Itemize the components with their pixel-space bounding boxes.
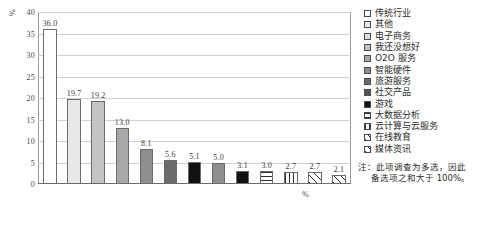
legend-item[interactable]: 社交产品 xyxy=(364,87,479,98)
bar-value-label: 3.0 xyxy=(261,161,272,170)
bar-column: 19.7 xyxy=(67,99,80,184)
bar-value-label: 2.1 xyxy=(334,165,345,174)
bar xyxy=(188,162,201,184)
bar-column: 2.1 xyxy=(332,175,345,184)
legend-label: 智能硬件 xyxy=(375,65,411,76)
legend-swatch-icon xyxy=(364,33,371,40)
bar xyxy=(332,175,345,184)
y-axis-tick-label: 10 xyxy=(26,137,35,146)
bar-column: 13.0 xyxy=(116,128,129,184)
bar-value-label: 2.7 xyxy=(285,162,296,171)
legend-swatch-icon xyxy=(364,123,371,130)
bar xyxy=(284,172,297,184)
y-axis-tick-label: 0 xyxy=(31,180,35,189)
legend-swatch-icon xyxy=(364,78,371,85)
plot-area: 0510152025303540 36.019.719.213.08.15.65… xyxy=(38,12,351,184)
legend-item[interactable]: 旅游服务 xyxy=(364,76,479,87)
legend-swatch-icon xyxy=(364,55,371,62)
bar-value-label: 19.7 xyxy=(67,89,82,98)
legend-swatch-icon xyxy=(364,10,371,17)
chart-note: 注：此项调查为多选，因此 备选项之和大于 100%。 xyxy=(358,162,480,184)
y-axis-tick-label: 5 xyxy=(31,158,35,167)
chart-note-line-2: 备选项之和大于 100%。 xyxy=(358,173,480,184)
bar-column: 2.7 xyxy=(284,172,297,184)
legend-item[interactable]: 智能硬件 xyxy=(364,64,479,75)
bar-value-label: 36.0 xyxy=(43,19,58,28)
legend-label: 电子商务 xyxy=(375,31,411,42)
bar-value-label: 8.1 xyxy=(141,139,152,148)
legend-swatch-icon xyxy=(364,44,371,51)
bar xyxy=(91,101,104,184)
y-axis-tick-label: 15 xyxy=(26,115,35,124)
legend-swatch-icon xyxy=(364,146,371,153)
bar-value-label: 5.0 xyxy=(213,153,224,162)
bar-column: 3.1 xyxy=(236,171,249,184)
legend-label: O2O 服务 xyxy=(375,53,416,64)
y-axis-tick-label: 40 xyxy=(26,8,35,17)
legend-item[interactable]: 传统行业 xyxy=(364,8,479,19)
bar xyxy=(116,128,129,184)
bar xyxy=(43,29,56,184)
bar-column: 3.0 xyxy=(260,171,273,184)
legend-label: 游戏 xyxy=(375,99,393,110)
legend-label: 社交产品 xyxy=(375,87,411,98)
y-axis-tick-label: 20 xyxy=(26,94,35,103)
bar-value-label: 19.2 xyxy=(91,91,106,100)
bar-column: 2.7 xyxy=(308,172,321,184)
legend-item[interactable]: 我还没想好 xyxy=(364,42,479,53)
legend-swatch-icon xyxy=(364,89,371,96)
bar-column: 5.6 xyxy=(164,160,177,184)
legend-item[interactable]: 电子商务 xyxy=(364,31,479,42)
bar-column: 5.0 xyxy=(212,163,225,185)
bar-value-label: 3.1 xyxy=(237,161,248,170)
bar xyxy=(236,171,249,184)
bar-series: 36.019.719.213.08.15.65.15.03.13.02.72.7… xyxy=(38,12,351,184)
legend-swatch-icon xyxy=(364,67,371,74)
bar-column: 19.2 xyxy=(91,101,104,184)
bar-column: 36.0 xyxy=(43,29,56,184)
legend-label: 传统行业 xyxy=(375,8,411,19)
x-axis-unit-label: % xyxy=(302,190,309,199)
legend-label: 我还没想好 xyxy=(375,42,420,53)
y-axis-label: % xyxy=(8,9,17,16)
legend-swatch-icon xyxy=(364,112,371,119)
bar-value-label: 13.0 xyxy=(115,118,130,127)
y-axis-tick-label: 35 xyxy=(26,29,35,38)
bar xyxy=(308,172,321,184)
legend-item[interactable]: 云计算与云服务 xyxy=(364,121,479,132)
bar xyxy=(212,163,225,185)
legend-item[interactable]: 游戏 xyxy=(364,98,479,109)
y-axis-tick-label: 30 xyxy=(26,51,35,60)
legend-label: 旅游服务 xyxy=(375,76,411,87)
legend-label: 其他 xyxy=(375,19,393,30)
legend-item[interactable]: 在线教育 xyxy=(364,132,479,143)
legend-item[interactable]: O2O 服务 xyxy=(364,53,479,64)
legend: 传统行业其他电子商务我还没想好O2O 服务智能硬件旅游服务社交产品游戏大数据分析… xyxy=(364,8,479,155)
legend-swatch-icon xyxy=(364,21,371,28)
legend-item[interactable]: 媒体资讯 xyxy=(364,144,479,155)
bar-chart-figure: % 0510152025303540 36.019.719.213.08.15.… xyxy=(0,0,481,236)
legend-label: 云计算与云服务 xyxy=(375,121,438,132)
legend-label: 在线教育 xyxy=(375,132,411,143)
legend-swatch-icon xyxy=(364,134,371,141)
bar-value-label: 2.7 xyxy=(310,162,321,171)
bar-value-label: 5.6 xyxy=(165,150,176,159)
bar xyxy=(140,149,153,184)
bar xyxy=(67,99,80,184)
legend-label: 媒体资讯 xyxy=(375,144,411,155)
bar-column: 8.1 xyxy=(140,149,153,184)
legend-label: 大数据分析 xyxy=(375,110,420,121)
bar-value-label: 5.1 xyxy=(189,152,200,161)
bar xyxy=(260,171,273,184)
y-axis-tick-label: 25 xyxy=(26,72,35,81)
legend-item[interactable]: 大数据分析 xyxy=(364,110,479,121)
legend-swatch-icon xyxy=(364,101,371,108)
chart-note-line-1: 注：此项调查为多选，因此 xyxy=(358,162,480,173)
legend-item[interactable]: 其他 xyxy=(364,19,479,30)
bar-column: 5.1 xyxy=(188,162,201,184)
bar xyxy=(164,160,177,184)
